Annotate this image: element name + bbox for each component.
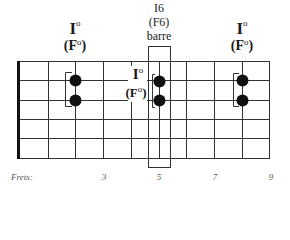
- degree-symbol: o: [139, 65, 144, 75]
- degree-symbol: o: [138, 84, 143, 94]
- chord-2-dot-string-3: [154, 95, 166, 107]
- chord-1-dot-string-2: [70, 75, 82, 87]
- inline-chord-roman: Io: [133, 67, 143, 82]
- chord-2-dot-string-2: [154, 76, 166, 88]
- fret-number-5: 5: [157, 172, 162, 182]
- chord-name-close: ): [142, 85, 146, 100]
- nut: [17, 61, 20, 159]
- fret-number-9: 9: [269, 172, 274, 182]
- chord-name: (F: [125, 85, 137, 100]
- chord-1-dot-string-3: [70, 95, 82, 107]
- frets-label: Frets:: [11, 172, 33, 182]
- inline-chord-name: (Fo): [125, 86, 146, 99]
- fret-number-3: 3: [102, 172, 107, 182]
- fret-number-7: 7: [213, 172, 218, 182]
- chord-3-dot-string-2: [237, 75, 249, 87]
- roman-numeral: I: [133, 66, 139, 82]
- chord-3-dot-string-3: [237, 95, 249, 107]
